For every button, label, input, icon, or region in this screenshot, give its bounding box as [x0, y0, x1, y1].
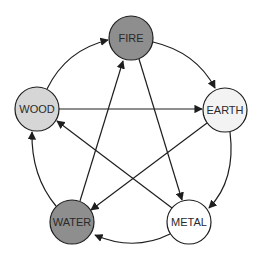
node-fire-label: FIRE [118, 32, 143, 44]
node-earth-label: EARTH [206, 104, 243, 116]
edge-water-to-wood [32, 132, 56, 206]
node-earth: EARTH [203, 88, 247, 132]
edge-earth-to-water [91, 123, 207, 210]
five-elements-diagram: FIRE WOOD EARTH WATER METAL [0, 0, 261, 257]
edge-metal-to-water [95, 234, 170, 243]
node-water-label: WATER [53, 216, 92, 228]
node-wood-label: WOOD [19, 103, 54, 115]
node-fire: FIRE [109, 16, 153, 60]
edge-fire-to-metal [139, 59, 182, 200]
edge-earth-to-metal [209, 132, 231, 208]
edge-metal-to-wood [57, 121, 172, 208]
node-water: WATER [50, 200, 94, 244]
inner-star-edges [57, 59, 207, 210]
edge-wood-to-fire [47, 40, 108, 89]
node-metal-label: METAL [171, 216, 207, 228]
node-metal: METAL [167, 200, 211, 244]
edge-fire-to-earth [153, 42, 215, 88]
node-wood: WOOD [15, 87, 59, 131]
edge-water-to-fire [80, 61, 123, 201]
